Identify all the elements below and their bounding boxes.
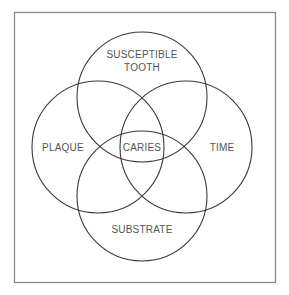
venn-diagram: SUSCEPTIBLE TOOTH PLAQUE CARIES TIME SUB… [0,0,289,295]
label-caries: CARIES [123,142,162,153]
label-substrate: SUBSTRATE [111,224,172,235]
label-time: TIME [210,142,235,153]
label-tooth: TOOTH [124,62,160,73]
label-plaque: PLAQUE [42,142,84,153]
label-susceptible: SUSCEPTIBLE [106,49,177,60]
